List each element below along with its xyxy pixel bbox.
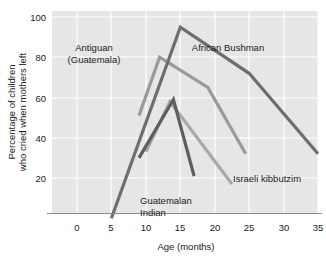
series-label-antiguan-guatemala-line1: Antiguan (75, 42, 113, 53)
series-label-african-bushman: African Bushman (192, 42, 264, 53)
y-tick-labels: 100 80 60 40 20 (30, 12, 46, 184)
line-chart-svg: 100 80 60 40 20 0 5 10 15 20 25 30 35 Ag… (0, 0, 326, 264)
y-tick-80: 80 (35, 52, 46, 63)
x-tick-labels: 0 5 10 15 20 25 30 35 (74, 222, 323, 233)
y-tick-100: 100 (30, 12, 46, 23)
y-axis-title: Percentage of children who cried when mo… (6, 53, 28, 173)
series-label-israeli-kibbutzim: Israeli kibbutzim (233, 173, 301, 184)
series-label-guatemalan-indian-line1: Guatemalan (140, 195, 192, 206)
x-tick-30: 30 (279, 222, 290, 233)
y-tick-60: 60 (35, 93, 46, 104)
y-axis-title-line1: Percentage of children (6, 64, 17, 159)
y-tick-40: 40 (35, 133, 46, 144)
chart-root: 100 80 60 40 20 0 5 10 15 20 25 30 35 Ag… (0, 0, 326, 264)
x-tick-0: 0 (74, 222, 79, 233)
y-axis-title-line2: who cried when mothers left (17, 53, 28, 173)
x-tick-25: 25 (244, 222, 255, 233)
x-tick-10: 10 (141, 222, 152, 233)
chart-canvas: 100 80 60 40 20 0 5 10 15 20 25 30 35 Ag… (0, 0, 326, 264)
series-label-guatemalan-indian-line2: Indian (140, 207, 166, 218)
x-tick-20: 20 (210, 222, 221, 233)
y-tick-20: 20 (35, 173, 46, 184)
series-label-antiguan-guatemala-line2: (Guatemala) (68, 54, 121, 65)
x-tick-35: 35 (313, 222, 324, 233)
x-axis-title: Age (months) (157, 241, 214, 252)
x-tick-15: 15 (175, 222, 186, 233)
x-tick-5: 5 (108, 222, 113, 233)
